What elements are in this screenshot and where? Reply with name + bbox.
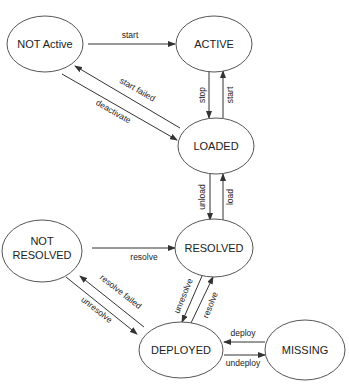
- state-loaded: LOADED: [178, 118, 254, 174]
- edge-deployed-to-missing: undeploy: [224, 355, 265, 368]
- edge-not-resolved-to-resolved: resolve: [92, 248, 175, 262]
- edge-missing-to-deployed: deploy: [224, 328, 265, 342]
- edge-label-stop: stop: [197, 87, 207, 103]
- state-missing: MISSING: [265, 320, 345, 380]
- state-deployed: DEPLOYED: [139, 322, 223, 378]
- state-label-not-resolved-line2: RESOLVED: [12, 249, 71, 261]
- edge-label-load: load: [225, 189, 235, 205]
- state-label-active: ACTIVE: [194, 38, 234, 50]
- state-not-active: NOT Active: [7, 16, 83, 72]
- edge-label-start: start: [122, 30, 139, 40]
- state-label-not-resolved-line1: NOT: [30, 235, 54, 247]
- edge-label-unresolve-2: unresolve: [172, 277, 195, 315]
- edge-resolved-to-deployed: unresolve: [172, 276, 202, 322]
- edge-label-undeploy: undeploy: [226, 358, 261, 368]
- edge-not-resolved-to-deployed: unresolve: [66, 277, 137, 334]
- state-label-missing: MISSING: [282, 344, 328, 356]
- state-diagram: start start failed deactivate stop start…: [0, 0, 349, 388]
- edge-not-active-to-active: start: [88, 30, 175, 44]
- edge-label-start-failed: start failed: [118, 75, 157, 103]
- edge-label-deploy: deploy: [230, 328, 256, 338]
- edge-resolved-to-loaded: load: [223, 174, 235, 220]
- edge-label-resolve: resolve: [130, 252, 158, 262]
- state-not-resolved: NOT RESOLVED: [2, 220, 82, 282]
- edge-label-start-2: start: [225, 86, 235, 103]
- edge-deployed-to-resolved: resolve: [191, 277, 220, 323]
- state-active: ACTIVE: [176, 16, 252, 72]
- edge-label-unload: unload: [197, 184, 207, 210]
- edge-label-resolve-2: resolve: [200, 290, 220, 319]
- state-label-deployed: DEPLOYED: [151, 344, 211, 356]
- edge-loaded-to-resolved: unload: [197, 174, 210, 220]
- state-label-not-active: NOT Active: [17, 38, 72, 50]
- edge-active-to-loaded: stop: [197, 71, 209, 118]
- state-label-loaded: LOADED: [193, 140, 238, 152]
- edge-label-resolve-failed: resolve failed: [98, 272, 144, 311]
- state-resolved: RESOLVED: [175, 219, 253, 277]
- state-label-resolved: RESOLVED: [184, 242, 243, 254]
- edge-loaded-to-active: start: [223, 71, 235, 118]
